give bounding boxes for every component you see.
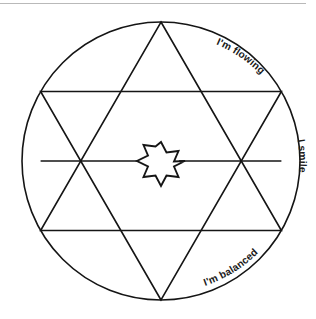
label-flowing: I'm flowing (215, 36, 267, 76)
label-smile-text: I smile (296, 138, 309, 173)
label-flowing-text: I'm flowing (215, 36, 267, 76)
label-smile: I smile (296, 138, 309, 173)
triangle-down (41, 92, 282, 301)
hexagram-figure: I'm flowing I smile I'm balanced (0, 0, 316, 319)
diagram-canvas: I'm flowing I smile I'm balanced (0, 0, 316, 319)
center-star-icon (137, 142, 185, 186)
